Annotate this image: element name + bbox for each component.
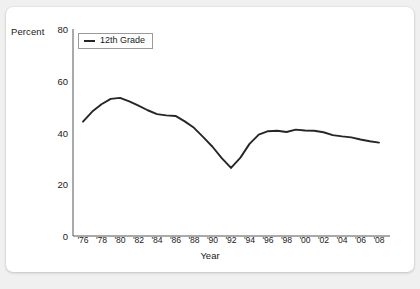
x-tick-label: '98 (281, 235, 292, 245)
x-tick-label: '08 (373, 235, 384, 245)
x-tick-label: '82 (133, 235, 144, 245)
x-tick-label: '04 (336, 235, 347, 245)
legend-label: 12th Grade (100, 36, 145, 45)
x-tick-label: '88 (188, 235, 199, 245)
x-tick-label: '78 (96, 235, 107, 245)
y-tick-label: 40 (40, 127, 68, 138)
x-tick-label: '06 (355, 235, 366, 245)
x-tick-label: '02 (318, 235, 329, 245)
legend-line-swatch-icon (84, 40, 95, 42)
x-tick-label: '92 (225, 235, 236, 245)
y-tick-label: 80 (40, 24, 68, 35)
x-tick-label: '90 (207, 235, 218, 245)
y-tick-label: 20 (40, 179, 68, 190)
chart-legend: 12th Grade (78, 33, 153, 49)
x-tick-label: '00 (299, 235, 310, 245)
x-tick-label: '96 (262, 235, 273, 245)
line-chart: Percent Year 020406080 '76'78'80'82'84'8… (0, 0, 420, 289)
y-tick-label: 60 (40, 75, 68, 86)
x-tick-label: '80 (114, 235, 125, 245)
page-background: Percent Year 020406080 '76'78'80'82'84'8… (0, 0, 420, 289)
series-line-12th-grade (83, 98, 379, 168)
x-tick-label: '84 (151, 235, 162, 245)
x-tick-label: '86 (170, 235, 181, 245)
x-axis-tick-labels: '76'78'80'82'84'86'88'90'92'94'96'98'00'… (0, 235, 420, 251)
x-tick-label: '94 (244, 235, 255, 245)
x-tick-label: '76 (77, 235, 88, 245)
